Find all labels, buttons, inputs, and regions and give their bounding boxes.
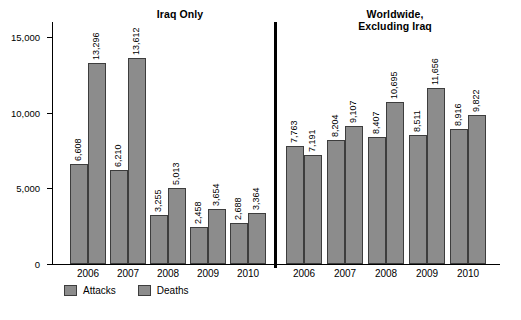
legend-swatch-attacks xyxy=(64,285,77,296)
legend-label-deaths: Deaths xyxy=(157,285,189,296)
panel-title-worldwide-line1: Worldwide, xyxy=(305,8,485,20)
bar-p0-2008-deaths: 5,013 xyxy=(168,188,186,264)
y-tick-label-15000: 15,000 xyxy=(11,31,40,42)
bar-label-p1-2009-deaths: 11,656 xyxy=(430,58,440,85)
x-label-p1-2006: 2006 xyxy=(286,268,322,279)
bar-p0-2007-attacks: 6,210 xyxy=(110,170,128,264)
bar-label-p0-2009-deaths: 3,654 xyxy=(211,183,221,206)
panel-divider xyxy=(274,22,277,268)
bar-p1-2010-attacks: 8,916 xyxy=(450,129,468,264)
x-label-p0-2008: 2008 xyxy=(150,268,186,279)
bar-label-p1-2010-attacks: 8,916 xyxy=(453,103,463,126)
bar-p0-2009-deaths: 3,654 xyxy=(208,209,226,264)
bar-p0-2006-deaths: 13,296 xyxy=(88,63,106,264)
bar-p1-2007-deaths: 9,107 xyxy=(345,126,363,264)
panel-title-iraq-only: Iraq Only xyxy=(100,8,260,20)
x-label-p1-2008: 2008 xyxy=(368,268,404,279)
bar-p0-2008-attacks: 3,255 xyxy=(150,215,168,264)
bar-label-p0-2006-deaths: 13,296 xyxy=(91,32,101,60)
bar-p1-2008-attacks: 8,407 xyxy=(368,137,386,264)
chart-container: Iraq Only Worldwide, Excluding Iraq 0 5,… xyxy=(0,0,521,320)
x-label-p0-2009: 2009 xyxy=(190,268,226,279)
plot-area: 0 5,000 10,000 15,000 6,608 13,296 2006 … xyxy=(52,22,500,265)
bar-p1-2009-attacks: 8,511 xyxy=(409,135,427,264)
x-label-p0-2006: 2006 xyxy=(70,268,106,279)
bar-p0-2007-deaths: 13,612 xyxy=(128,58,146,264)
y-tick-label-10000: 10,000 xyxy=(11,107,40,118)
bar-label-p1-2008-attacks: 8,407 xyxy=(371,111,381,134)
legend-swatch-deaths xyxy=(138,285,151,296)
bar-label-p0-2007-deaths: 13,612 xyxy=(131,27,141,55)
y-tick-label-5000: 5,000 xyxy=(16,183,40,194)
bar-label-p0-2010-deaths: 3,364 xyxy=(251,188,261,211)
x-label-p1-2009: 2009 xyxy=(409,268,445,279)
y-tick-10000: 10,000 xyxy=(47,113,52,114)
x-label-p0-2007: 2007 xyxy=(110,268,146,279)
bar-p1-2010-deaths: 9,822 xyxy=(468,115,486,264)
y-axis-line xyxy=(52,22,53,265)
y-tick-0: 0 xyxy=(47,264,52,265)
bar-p0-2010-deaths: 3,364 xyxy=(248,213,266,264)
y-tick-15000: 15,000 xyxy=(47,37,52,38)
legend-item-attacks: Attacks xyxy=(64,285,116,296)
chart-legend: Attacks Deaths xyxy=(64,285,188,296)
bar-label-p1-2008-deaths: 10,695 xyxy=(389,72,399,100)
bar-label-p1-2006-attacks: 7,763 xyxy=(289,121,299,144)
x-label-p1-2010: 2010 xyxy=(450,268,486,279)
y-tick-label-0: 0 xyxy=(35,259,40,270)
x-label-p1-2007: 2007 xyxy=(327,268,363,279)
bar-label-p1-2007-deaths: 9,107 xyxy=(348,101,358,124)
bar-label-p0-2008-attacks: 3,255 xyxy=(153,189,163,212)
bar-p0-2009-attacks: 2,458 xyxy=(190,227,208,264)
bar-label-p0-2007-attacks: 6,210 xyxy=(113,144,123,167)
bar-label-p0-2010-attacks: 2,688 xyxy=(233,198,243,221)
bar-label-p1-2006-deaths: 7,191 xyxy=(307,130,317,153)
bar-p1-2006-deaths: 7,191 xyxy=(304,155,322,264)
bar-label-p0-2008-deaths: 5,013 xyxy=(171,163,181,186)
bar-p1-2006-attacks: 7,763 xyxy=(286,146,304,264)
bar-label-p1-2007-attacks: 8,204 xyxy=(330,114,340,137)
legend-item-deaths: Deaths xyxy=(138,285,189,296)
x-label-p0-2010: 2010 xyxy=(230,268,266,279)
bar-p0-2006-attacks: 6,608 xyxy=(70,164,88,264)
bar-p1-2009-deaths: 11,656 xyxy=(427,88,445,265)
bar-label-p0-2006-attacks: 6,608 xyxy=(73,138,83,161)
bar-label-p1-2009-attacks: 8,511 xyxy=(412,110,422,132)
bar-p1-2008-deaths: 10,695 xyxy=(386,102,404,264)
bar-p0-2010-attacks: 2,688 xyxy=(230,223,248,264)
legend-label-attacks: Attacks xyxy=(83,285,116,296)
y-tick-5000: 5,000 xyxy=(47,188,52,189)
bar-label-p1-2010-deaths: 9,822 xyxy=(471,90,481,113)
bar-label-p0-2009-attacks: 2,458 xyxy=(193,201,203,224)
bar-p1-2007-attacks: 8,204 xyxy=(327,140,345,264)
